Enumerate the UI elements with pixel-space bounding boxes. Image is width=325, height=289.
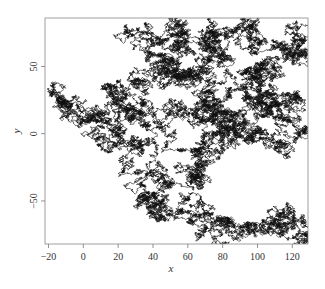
x-tick-label: 40 — [148, 251, 158, 262]
x-tick-label: 80 — [218, 251, 228, 262]
x-tick-label: 100 — [250, 251, 265, 262]
x-tick-label: 120 — [285, 251, 300, 262]
x-tick-label: 0 — [81, 251, 86, 262]
y-tick-label: 50 — [28, 61, 39, 71]
x-tick-label: 60 — [183, 251, 193, 262]
x-axis: −20020406080100120 — [41, 244, 300, 262]
y-tick-label: 0 — [28, 131, 39, 136]
y-axis-label: y — [10, 128, 22, 134]
walk-segment — [259, 202, 323, 250]
y-axis: −50050 — [28, 61, 45, 208]
y-tick-label: −50 — [28, 193, 39, 209]
x-axis-label: x — [168, 262, 174, 274]
x-tick-label: 20 — [113, 251, 123, 262]
random-walk-chart: −20020406080100120 −50050 x y — [0, 0, 325, 289]
random-walk-path — [47, 12, 323, 250]
x-tick-label: −20 — [41, 251, 57, 262]
